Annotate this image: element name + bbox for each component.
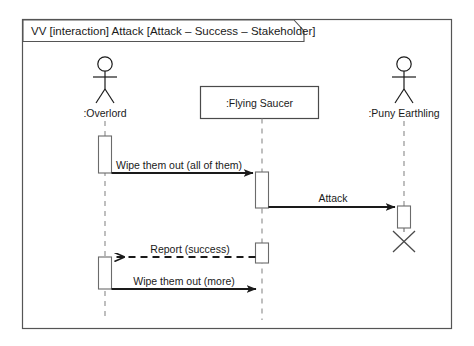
frame-title-label: VV [interaction] Attack [Attack – Succes… [31, 25, 315, 37]
activation-bar-saucer-1 [256, 172, 269, 208]
message-label-3: Report (success) [150, 243, 229, 255]
message-label-1: Wipe them out (all of them) [116, 159, 242, 171]
message-label-2: Attack [318, 192, 348, 204]
activation-bar-earthling [398, 206, 411, 228]
participant-label-overlord: :Overlord [83, 107, 126, 119]
message-wipe-them-out-all[interactable]: Wipe them out (all of them) [112, 159, 254, 173]
participant-label-flying-saucer: :Flying Saucer [226, 97, 294, 109]
activation-bar-saucer-2 [256, 243, 269, 263]
activation-bar-overlord-2 [99, 257, 112, 289]
message-label-4: Wipe them out (more) [133, 275, 235, 287]
sequence-diagram-root: VV [interaction] Attack [Attack – Succes… [0, 0, 474, 346]
participant-flying-saucer[interactable]: :Flying Saucer [201, 87, 319, 119]
activation-bar-overlord-1 [99, 136, 112, 173]
message-wipe-them-out-more[interactable]: Wipe them out (more) [112, 275, 257, 289]
participant-label-puny-earthling: :Puny Earthling [368, 107, 439, 119]
